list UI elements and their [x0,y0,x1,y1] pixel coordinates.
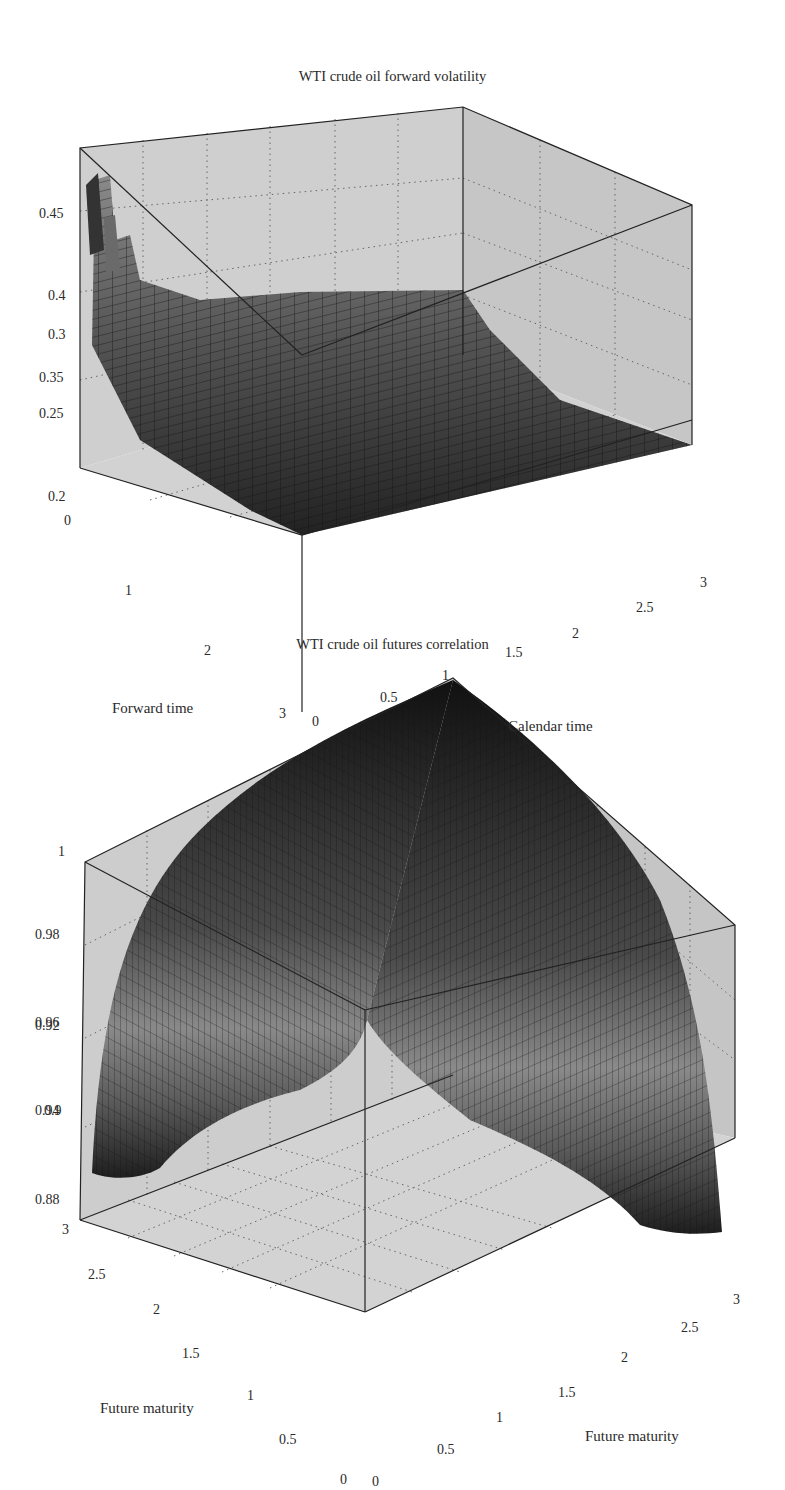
chart2-y-tick: 3 [62,1222,69,1238]
chart1-ylabel: Forward time [112,700,193,717]
chart1-y-tick: 3 [279,706,286,722]
chart2-x-tick: 2 [621,1350,628,1366]
chart1-y-tick: 1 [125,583,132,599]
chart1-z-tick: 0.3 [48,327,66,343]
chart2-y-tick: 2.5 [88,1267,106,1283]
chart2-x-tick: 0.5 [437,1442,455,1458]
chart1-box [80,107,692,712]
chart1-y-tick: 0 [64,513,71,529]
chart1-z-tick: 0.35 [39,370,64,386]
chart2-z-tick: 0.92 [35,1018,60,1034]
chart2-title: WTI crude oil futures correlation [0,636,785,653]
chart1-x-tick: 3 [700,575,707,591]
chart2-x-tick: 3 [733,1292,740,1308]
chart2-y-tick: 0.5 [279,1432,297,1448]
chart1-z-tick: 0.4 [48,288,66,304]
chart2-x-tick: 2.5 [681,1320,699,1336]
chart2-z-tick: 0.9 [44,1103,62,1119]
chart2-z-tick: 1 [58,844,65,860]
chart1-x-tick: 0.5 [380,690,398,706]
chart2-xlabel: Future maturity [585,1428,679,1445]
chart2-box [80,678,735,1312]
chart2-x-tick: 1.5 [558,1385,576,1401]
chart2-ylabel: Future maturity [100,1400,194,1417]
chart2-z-tick: 0.98 [35,927,60,943]
chart1-z-tick: 0.45 [39,206,64,222]
chart1-x-tick: 2.5 [636,600,654,616]
chart1-z-tick: 0.2 [48,489,66,505]
chart1-xlabel: Calendar time [508,718,593,735]
chart2-z-tick: 0.88 [35,1192,60,1208]
chart2-y-tick: 1.5 [182,1346,200,1362]
chart2-y-tick: 1 [247,1388,254,1404]
chart2-y-tick: 0 [340,1472,347,1488]
chart1-x-tick: 0 [312,714,319,730]
chart1-z-tick: 0.25 [39,406,64,422]
chart2-y-tick: 2 [153,1302,160,1318]
chart2-x-tick: 1 [496,1410,503,1426]
chart2-x-tick: 0 [372,1474,379,1490]
chart1-x-tick: 1 [442,668,449,684]
